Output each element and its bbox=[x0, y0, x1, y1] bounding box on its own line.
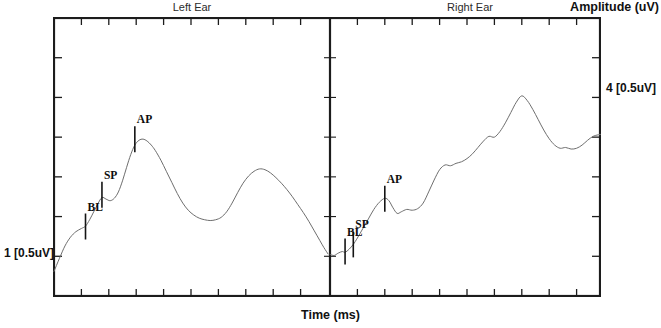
axis-ticks bbox=[54, 18, 600, 296]
peak-label-sp: SP bbox=[355, 219, 368, 231]
frame-rect bbox=[54, 18, 600, 296]
peak-label-ap: AP bbox=[137, 114, 152, 126]
peak-label-ap: AP bbox=[387, 174, 402, 186]
left-panel-title: Left Ear bbox=[142, 2, 242, 13]
axis-frame bbox=[54, 18, 600, 296]
y-axis-title: Amplitude (uV) bbox=[570, 1, 659, 14]
peak-label-bl: BL bbox=[88, 202, 103, 214]
peak-label-sp: SP bbox=[104, 170, 117, 182]
figure-root: Left Ear Right Ear Amplitude (uV) Time (… bbox=[0, 0, 661, 328]
x-axis-title: Time (ms) bbox=[0, 309, 661, 322]
plot-area: BLSPAPBLSPAP bbox=[53, 17, 601, 297]
right-scale-label: 4 [0.5uV] bbox=[606, 82, 656, 94]
waveform-line bbox=[330, 96, 601, 256]
right-panel-title: Right Ear bbox=[420, 2, 520, 13]
peak-marker-lines bbox=[86, 126, 385, 264]
plot-svg bbox=[53, 17, 601, 297]
left-scale-label: 1 [0.5uV] bbox=[4, 247, 54, 259]
